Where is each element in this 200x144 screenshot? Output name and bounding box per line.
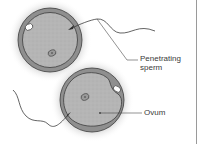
label-ovum: Ovum: [144, 108, 165, 117]
cytoplasm: [23, 13, 78, 68]
nucleolus: [84, 96, 86, 98]
fertilization-diagram: Penetrating sperm Ovum: [0, 0, 200, 144]
label-line-2: sperm: [140, 63, 181, 72]
label-line-1: Penetrating: [140, 54, 181, 63]
penetrating-sperm-leader-line: [97, 19, 138, 60]
figure-border: [196, 0, 197, 144]
egg-cell-bottom: [50, 58, 134, 142]
diagram-canvas: [0, 0, 200, 144]
nucleolus: [51, 52, 53, 54]
label-penetrating-sperm: Penetrating sperm: [140, 54, 181, 72]
